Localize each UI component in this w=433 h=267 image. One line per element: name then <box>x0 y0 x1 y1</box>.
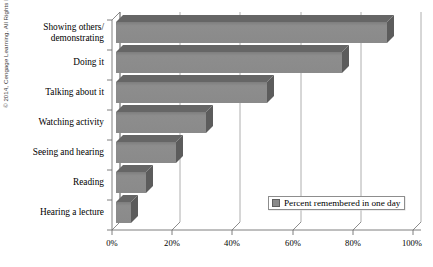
legend-swatch-icon <box>272 199 280 207</box>
y-axis-ticks <box>107 20 112 230</box>
bar-reading <box>116 165 153 193</box>
category-label-reading: Reading <box>14 177 104 188</box>
bar-showing-others <box>116 15 394 43</box>
x-tick-label-60: 60% <box>273 238 313 248</box>
x-tick-label-80: 80% <box>333 238 373 248</box>
x-axis-ticks <box>112 230 413 235</box>
category-label-doing-it: Doing it <box>14 57 104 68</box>
category-label-seeing-and-hearing: Seeing and hearing <box>6 147 104 158</box>
category-label-watching-activity: Watching activity <box>9 117 104 128</box>
legend-label: Percent remembered in one day <box>284 198 400 208</box>
chart-figure: © 2014, Cengage Learning. All Rights Res… <box>0 0 433 267</box>
bar-talking-about-it <box>116 75 274 103</box>
bar-watching-activity <box>116 105 213 133</box>
bar-seeing-and-hearing <box>116 135 183 163</box>
category-label-showing-others: Showing others/ demonstrating <box>14 22 104 43</box>
x-tick-label-20: 20% <box>152 238 192 248</box>
chart-legend: Percent remembered in one day <box>268 196 405 210</box>
x-tick-label-0: 0% <box>92 238 132 248</box>
bar-doing-it <box>116 45 349 73</box>
category-label-talking-about-it: Talking about it <box>14 87 104 98</box>
bar-hearing-a-lecture <box>116 195 138 223</box>
x-tick-label-100: 100% <box>392 238 432 248</box>
x-tick-label-40: 40% <box>212 238 252 248</box>
category-label-hearing-a-lecture: Hearing a lecture <box>9 207 104 218</box>
